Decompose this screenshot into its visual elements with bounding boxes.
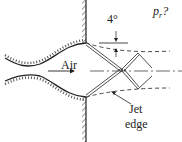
pressure-label: pr? <box>153 5 168 20</box>
nozzle-diagram <box>0 0 182 142</box>
jet-edge-leader <box>111 91 131 104</box>
lower-nozzle-wall <box>5 75 86 100</box>
air-label: Air <box>61 59 77 71</box>
angle-label: 4° <box>107 13 118 25</box>
angle-indicator <box>99 31 128 57</box>
edge-label: edge <box>125 118 148 130</box>
jet-label: Jet <box>129 103 142 115</box>
wall <box>82 0 86 142</box>
oblique-shocks <box>86 42 152 98</box>
pressure-suffix: ? <box>162 4 168 18</box>
